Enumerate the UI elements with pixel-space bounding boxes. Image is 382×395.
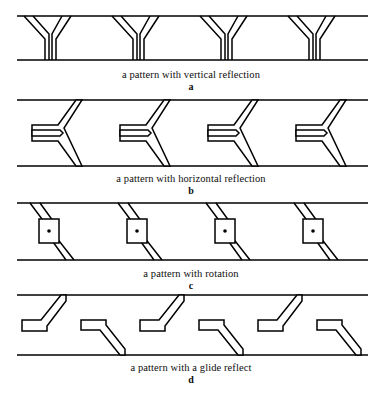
- panel-a-caption: a pattern with vertical reflection: [0, 69, 382, 81]
- panel-c-band: [0, 195, 382, 267]
- panel-c: a pattern with rotation c: [0, 195, 382, 292]
- rotation-center-dot: [47, 229, 51, 233]
- motif-sideways-y: [296, 100, 346, 166]
- motif-upright-y: [200, 16, 247, 60]
- motif-rotation: [206, 203, 250, 260]
- panel-a-svg: [0, 8, 382, 68]
- motif-glide-hook-up: [22, 295, 66, 331]
- motif-glide-hook-down: [199, 320, 243, 355]
- motif-upright-y: [112, 16, 159, 60]
- motif-rotation: [30, 203, 74, 260]
- panel-b-band: [0, 92, 382, 172]
- panel-a: a pattern with vertical reflection a: [0, 8, 382, 93]
- motif-sideways-y: [120, 100, 170, 166]
- motif-rotation: [294, 203, 338, 260]
- motif-sideways-y: [32, 100, 82, 166]
- panel-d-svg: [0, 287, 382, 361]
- motif-glide-hook-down: [81, 320, 125, 355]
- panel-c-svg: [0, 195, 382, 267]
- motif-glide-hook-down: [317, 320, 361, 355]
- panel-b: a pattern with horizontal reflection b: [0, 92, 382, 197]
- panel-d-caption-block: a pattern with a glide reflect d: [0, 362, 382, 386]
- panel-a-band: [0, 8, 382, 68]
- panel-b-caption-block: a pattern with horizontal reflection b: [0, 173, 382, 197]
- panel-c-caption: a pattern with rotation: [0, 268, 382, 280]
- motif-rotation: [118, 203, 162, 260]
- panel-d-sublabel: d: [0, 374, 382, 386]
- motif-glide-hook-up: [140, 295, 184, 331]
- rotation-center-dot: [223, 229, 227, 233]
- panel-a-caption-block: a pattern with vertical reflection a: [0, 69, 382, 93]
- motif-glide-hook-up: [258, 295, 302, 331]
- panel-d-caption: a pattern with a glide reflect: [0, 362, 382, 374]
- panel-d: a pattern with a glide reflect d: [0, 287, 382, 386]
- rotation-center-dot: [135, 229, 139, 233]
- motif-sideways-y: [208, 100, 258, 166]
- panel-d-band: [0, 287, 382, 361]
- rotation-center-dot: [311, 229, 315, 233]
- motif-upright-y: [24, 16, 71, 60]
- frieze-patterns-figure: a pattern with vertical reflection a: [0, 0, 382, 395]
- panel-b-caption: a pattern with horizontal reflection: [0, 173, 382, 185]
- panel-b-svg: [0, 92, 382, 172]
- motif-upright-y: [288, 16, 335, 60]
